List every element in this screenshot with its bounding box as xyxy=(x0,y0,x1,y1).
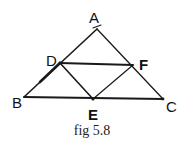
point-c-dot xyxy=(162,98,165,101)
label-a: A xyxy=(89,9,99,26)
figure-caption: fig 5.8 xyxy=(74,123,111,138)
segment-de xyxy=(60,63,93,99)
segment-df xyxy=(60,63,133,65)
label-b: B xyxy=(12,94,22,111)
label-f: F xyxy=(139,56,148,73)
point-e-dot xyxy=(91,97,94,100)
label-e: E xyxy=(88,106,98,123)
segment-ef xyxy=(93,65,133,99)
label-d: D xyxy=(46,52,57,69)
triangle-diagram: A D F B E C fig 5.8 xyxy=(0,0,185,149)
label-c: C xyxy=(166,98,177,115)
point-d-dot xyxy=(59,62,62,65)
